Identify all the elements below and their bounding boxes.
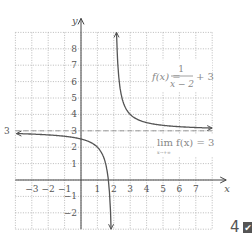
svg-text:x→+∞: x→+∞ xyxy=(157,150,171,155)
svg-text:2: 2 xyxy=(111,184,117,194)
exercise-badge: 4 ✔ xyxy=(230,220,252,235)
graph: −3−2−1123456787654321−1−2yx3 f(x) =1x − … xyxy=(0,0,252,251)
svg-text:5: 5 xyxy=(160,184,166,194)
svg-text:−1: −1 xyxy=(64,191,77,201)
svg-text:−2: −2 xyxy=(64,208,77,218)
svg-text:y: y xyxy=(71,15,78,26)
svg-text:5: 5 xyxy=(71,93,77,103)
svg-text:lim f(x) = 3: lim f(x) = 3 xyxy=(157,137,214,148)
svg-text:3: 3 xyxy=(71,126,77,136)
svg-text:8: 8 xyxy=(71,44,77,54)
check-icon[interactable]: ✔ xyxy=(243,222,252,233)
annotations: f(x) =1x − 2+ 3lim f(x) = 3x→+∞ xyxy=(150,60,214,156)
svg-text:7: 7 xyxy=(193,184,199,194)
svg-text:3: 3 xyxy=(127,184,133,194)
svg-text:7: 7 xyxy=(71,60,77,70)
svg-text:1: 1 xyxy=(71,159,77,169)
svg-text:3: 3 xyxy=(4,126,10,136)
svg-text:−2: −2 xyxy=(42,184,55,194)
svg-text:6: 6 xyxy=(177,184,183,194)
svg-text:6: 6 xyxy=(71,77,77,87)
svg-text:x: x xyxy=(224,183,230,194)
svg-text:+ 3: + 3 xyxy=(196,71,214,82)
svg-text:4: 4 xyxy=(144,184,150,194)
svg-text:1: 1 xyxy=(178,64,184,74)
svg-text:2: 2 xyxy=(71,142,77,152)
svg-text:−3: −3 xyxy=(25,184,39,194)
axes xyxy=(15,18,226,229)
svg-text:4: 4 xyxy=(71,109,77,119)
exercise-number: 4 xyxy=(230,220,240,235)
svg-text:x − 2: x − 2 xyxy=(170,79,194,89)
svg-text:1: 1 xyxy=(95,184,101,194)
